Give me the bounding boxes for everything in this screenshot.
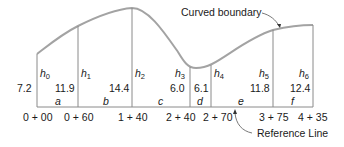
station-label-0: 0 + 00 xyxy=(23,112,53,123)
segment-label-d: d xyxy=(197,96,203,107)
arrowhead-icon xyxy=(233,109,237,114)
curved-boundary-leader xyxy=(262,13,279,26)
offset-value-h2: 14.4 xyxy=(109,83,129,94)
reference-line-leader xyxy=(235,113,252,133)
offset-value-h3: 6.0 xyxy=(170,83,185,94)
station-label-6: 4 + 35 xyxy=(298,112,328,123)
station-label-5: 3 + 75 xyxy=(259,112,289,123)
segment-label-b: b xyxy=(103,96,109,107)
offset-value-h0: 7.2 xyxy=(17,83,32,94)
station-label-3: 2 + 40 xyxy=(166,112,196,123)
segment-label-e: e xyxy=(238,96,244,107)
offset-label-h0: h0 xyxy=(40,68,50,81)
offset-label-h4: h4 xyxy=(214,68,224,81)
segment-label-c: c xyxy=(158,96,163,107)
reference-line-label: Reference Line xyxy=(257,128,328,139)
curved-boundary-label: Curved boundary xyxy=(181,7,262,18)
segment-label-a: a xyxy=(55,96,61,107)
offset-label-h5: h5 xyxy=(259,68,269,81)
segment-label-f: f xyxy=(291,96,294,107)
offset-value-h5: 11.8 xyxy=(250,83,270,94)
offset-label-h6: h6 xyxy=(299,68,309,81)
station-label-2: 1 + 40 xyxy=(118,112,148,123)
offset-value-h6: 12.4 xyxy=(290,83,310,94)
offset-label-h1: h1 xyxy=(81,68,91,81)
diagram-canvas xyxy=(0,0,344,147)
offset-label-h2: h2 xyxy=(135,68,145,81)
offset-label-h3: h3 xyxy=(175,68,185,81)
station-label-4: 2 + 70 xyxy=(203,112,233,123)
offset-value-h4: 6.1 xyxy=(194,83,209,94)
offset-value-h1: 11.9 xyxy=(55,83,75,94)
station-label-1: 0 + 60 xyxy=(64,112,94,123)
